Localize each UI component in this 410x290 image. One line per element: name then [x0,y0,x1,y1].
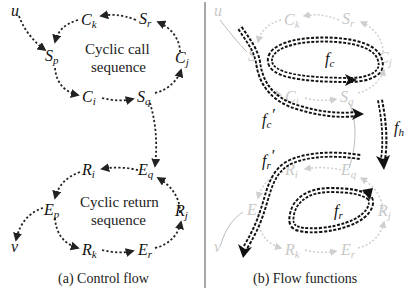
edge-ep-v [16,208,43,240]
caption-a: (a) Control flow [58,271,150,287]
diagram-canvas: u Ck Sr Sp Cj Ci Sq Cyclic call sequence… [0,0,410,290]
node-er: Er [137,241,153,260]
edge-ck-sp [55,20,78,42]
node-sq: Sq [137,88,151,107]
edge-rk-er [102,250,133,252]
svg-text:Rj: Rj [377,202,391,221]
node-ck: Ck [81,11,98,30]
node-rj: Rj [174,202,188,221]
svg-text:Sq: Sq [340,88,354,107]
edge-ep-rk [55,218,78,248]
edge-sp-ci [55,68,78,95]
svg-text:Eq: Eq [340,161,357,180]
return-cycle-label-1: Cyclic return [80,194,159,210]
node-v: v [11,238,19,255]
panel-a-control-flow: u Ck Sr Sp Cj Ci Sq Cyclic call sequence… [11,2,189,287]
edge-sr-ck [101,15,136,20]
node-ci: Ci [82,88,96,107]
label-fr: fr [334,202,343,221]
node-ep: Ep [43,201,60,220]
edge-eq-ri [102,168,138,170]
node-cj: Cj [175,49,189,68]
label-fr-prime: fr′ [262,147,275,171]
svg-text:Sr: Sr [342,10,355,29]
edge-sq-cj [155,70,181,93]
label-fc: fc [325,50,334,69]
edge-cj-sr [158,22,180,52]
node-ri: Ri [81,161,95,180]
panel-b-flow-functions: u Ck Sr Sp Cj Ci Sq Ri Eq Ep Rj Rk Er v [214,2,404,287]
label-fc-prime: fc′ [262,106,275,130]
call-cycle-label-2: sequence [91,59,146,75]
svg-text:v: v [214,238,222,255]
call-cycle-label-1: Cyclic call [85,41,150,57]
edge-sq-eq [150,103,156,166]
caption-b: (b) Flow functions [253,271,357,287]
node-sr: Sr [139,10,152,29]
edge-u-sp [19,16,45,50]
edge-er-rj [155,222,181,248]
edge-ci-sq [102,98,133,100]
label-fh: fh [394,119,404,138]
svg-text:u: u [214,2,222,19]
flow-fr-loop [291,188,373,230]
node-u: u [11,2,19,19]
svg-text:Ck: Ck [284,11,301,30]
flow-fh [376,100,390,170]
svg-text:Rk: Rk [284,241,301,260]
node-sp: Sp [45,47,59,66]
svg-text:Er: Er [340,241,356,260]
node-eq: Eq [137,161,154,180]
node-rk: Rk [81,241,98,260]
edge-ri-ep [55,172,80,198]
return-cycle-label-2: sequence [91,212,146,228]
